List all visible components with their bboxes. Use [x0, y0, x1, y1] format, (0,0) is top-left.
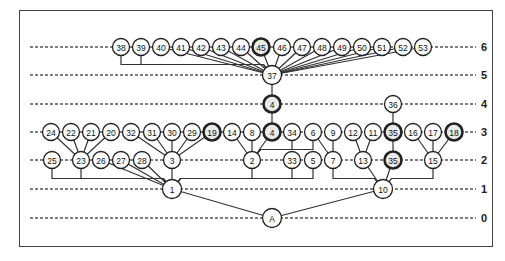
node-5: 5 [305, 152, 322, 169]
node-label: 18 [449, 128, 459, 138]
node-label: 11 [369, 128, 378, 138]
node-label: 24 [46, 128, 56, 138]
node-label: 39 [136, 43, 146, 53]
level-label: 4 [481, 98, 488, 110]
node-53: 53 [415, 39, 432, 56]
edge-6-2 [252, 141, 313, 161]
node-14: 14 [224, 124, 241, 141]
node-A: A [263, 209, 282, 228]
node-label: 33 [287, 156, 297, 166]
node-40: 40 [153, 39, 170, 56]
node-label: 51 [377, 43, 387, 53]
node-3: 3 [164, 152, 181, 169]
node-label: 47 [297, 43, 307, 53]
node-label: 2 [250, 156, 255, 166]
node-27: 27 [113, 152, 130, 169]
node-label: 48 [317, 43, 327, 53]
node-2: 2 [244, 152, 261, 169]
node-label: 14 [227, 128, 237, 138]
node-38: 38 [113, 39, 130, 56]
hierarchy-diagram: 6543210 38394041424344454647484950515253… [0, 0, 505, 261]
node-label: 28 [137, 156, 147, 166]
node-10: 10 [374, 180, 393, 199]
level-label: 6 [481, 41, 487, 53]
node-label: 46 [277, 43, 287, 53]
node-label: 21 [86, 128, 96, 138]
node-47: 47 [294, 39, 311, 56]
node-9: 9 [325, 124, 342, 141]
node-20: 20 [103, 124, 120, 141]
node-21: 21 [83, 124, 100, 141]
node-label: 42 [196, 43, 206, 53]
node-label: 10 [378, 185, 388, 195]
node-label: 23 [76, 156, 86, 166]
node-label: 6 [311, 128, 316, 138]
level-label: 3 [481, 126, 487, 138]
node-label: 31 [147, 128, 157, 138]
node-label: 37 [267, 71, 277, 81]
level-label: 5 [481, 69, 487, 81]
node-19: 19 [204, 124, 221, 141]
edge-1-A [172, 189, 272, 218]
node-label: 7 [331, 156, 336, 166]
node-13: 13 [355, 152, 372, 169]
node-22: 22 [63, 124, 80, 141]
node-7: 7 [325, 152, 342, 169]
node-label: 32 [126, 128, 136, 138]
node-43: 43 [213, 39, 230, 56]
node-label: 53 [418, 43, 428, 53]
node-label: 29 [187, 128, 197, 138]
node-6: 6 [305, 124, 322, 141]
node-17: 17 [425, 124, 442, 141]
node-44: 44 [233, 39, 250, 56]
node-label: 16 [408, 128, 418, 138]
node-18: 18 [446, 124, 463, 141]
node-42: 42 [193, 39, 210, 56]
node-33: 33 [284, 152, 301, 169]
edge-23-1 [81, 169, 172, 190]
node-label: 35 [388, 156, 398, 166]
node-label: 30 [167, 128, 177, 138]
node-34: 34 [284, 124, 301, 141]
node-50: 50 [354, 39, 371, 56]
node-label: 1 [170, 185, 175, 195]
node-32: 32 [123, 124, 140, 141]
node-52: 52 [395, 39, 412, 56]
node-label: 8 [250, 128, 255, 138]
node-label: 38 [116, 43, 126, 53]
node-41: 41 [173, 39, 190, 56]
node-49: 49 [334, 39, 351, 56]
node-24: 24 [43, 124, 60, 141]
node-23: 23 [73, 152, 90, 169]
node-label: 43 [216, 43, 226, 53]
node-48: 48 [314, 39, 331, 56]
node-label: 17 [428, 128, 438, 138]
edge-10-A [272, 189, 383, 218]
node-label: 15 [428, 156, 438, 166]
node-46: 46 [274, 39, 291, 56]
node-label: 50 [357, 43, 367, 53]
node-12: 12 [345, 124, 362, 141]
node-label: 25 [47, 156, 57, 166]
node-39: 39 [133, 39, 150, 56]
node-4b: 4 [264, 124, 281, 141]
node-label: 27 [116, 156, 126, 166]
level-label: 0 [481, 212, 487, 224]
node-25: 25 [44, 152, 61, 169]
node-16: 16 [405, 124, 422, 141]
node-label: A [269, 214, 275, 224]
node-label: 9 [331, 128, 336, 138]
node-label: 44 [236, 43, 246, 53]
node-36: 36 [385, 96, 402, 113]
node-label: 4 [270, 100, 275, 110]
node-15: 15 [425, 152, 442, 169]
edge-38-37 [121, 56, 272, 76]
node-35a: 35 [385, 124, 402, 141]
node-label: 26 [96, 156, 106, 166]
node-30: 30 [164, 124, 181, 141]
node-26: 26 [93, 152, 110, 169]
node-label: 41 [176, 43, 186, 53]
node-label: 52 [398, 43, 408, 53]
level-label: 2 [481, 154, 487, 166]
node-31: 31 [144, 124, 161, 141]
